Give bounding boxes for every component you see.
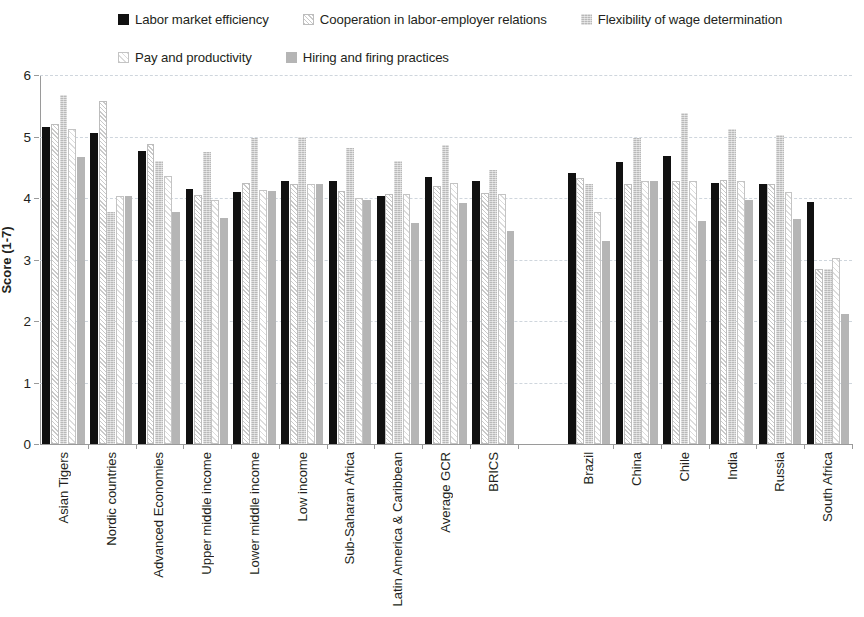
- bar: [568, 173, 576, 444]
- bar: [211, 200, 219, 444]
- bar: [585, 184, 593, 444]
- x-axis-category-label: Brazil: [581, 452, 596, 484]
- bar: [737, 181, 745, 444]
- y-axis-tick: [34, 75, 39, 76]
- x-axis-tick: [756, 444, 757, 449]
- bar: [403, 194, 411, 444]
- bar: [164, 176, 172, 444]
- legend-item-label: Hiring and firing practices: [303, 50, 449, 65]
- bar: [338, 191, 346, 444]
- x-axis-line: [40, 444, 852, 445]
- bar: [681, 113, 689, 444]
- x-axis-tick: [613, 444, 614, 449]
- bar: [641, 181, 649, 444]
- y-axis-tick: [34, 383, 39, 384]
- bar: [594, 212, 602, 444]
- bar: [711, 183, 719, 444]
- legend-swatch-icon: [118, 52, 129, 63]
- legend-item-hiring-and-firing-practices: Hiring and firing practices: [286, 50, 449, 65]
- bar: [759, 184, 767, 444]
- x-axis-category-label: India: [725, 452, 740, 480]
- bar: [107, 212, 115, 444]
- bar: [316, 184, 324, 444]
- bar: [233, 192, 241, 444]
- x-axis-category-label: Latin America & Caribbean: [390, 452, 405, 606]
- bar: [220, 218, 228, 444]
- legend-row-2: Pay and productivity Hiring and firing p…: [118, 50, 483, 65]
- x-axis-tick: [183, 444, 184, 449]
- bar: [650, 181, 658, 444]
- y-axis-tick: [34, 321, 39, 322]
- bar: [242, 183, 250, 444]
- bar: [394, 161, 402, 445]
- bar: [268, 191, 276, 444]
- bar: [576, 178, 584, 444]
- bar: [472, 181, 480, 444]
- bar: [824, 269, 832, 444]
- bar: [459, 203, 467, 444]
- x-axis-tick: [518, 444, 519, 449]
- bar: [155, 161, 163, 444]
- bar: [290, 184, 298, 444]
- legend-swatch-icon: [303, 14, 314, 25]
- y-axis-tick-label: 4: [23, 191, 31, 206]
- y-axis-tick-label: 6: [23, 68, 31, 83]
- bar: [90, 133, 98, 444]
- bar: [194, 195, 202, 444]
- x-axis-tick: [709, 444, 710, 449]
- bar: [99, 101, 107, 444]
- x-axis-tick: [231, 444, 232, 449]
- legend-swatch-icon: [581, 14, 592, 25]
- bar: [298, 137, 306, 444]
- y-axis-tick-label: 1: [23, 375, 31, 390]
- bar: [203, 152, 211, 444]
- bar: [776, 135, 784, 444]
- bar: [259, 190, 267, 444]
- bar: [172, 212, 180, 444]
- bar: [281, 181, 289, 444]
- bar: [698, 221, 706, 444]
- legend-item-label: Pay and productivity: [135, 50, 252, 65]
- x-axis-category-label: Low income: [295, 452, 310, 521]
- x-axis-category-label: Chile: [677, 452, 692, 482]
- bar: [793, 219, 801, 444]
- x-axis-tick: [88, 444, 89, 449]
- legend-item-label: Labor market efficiency: [135, 12, 269, 27]
- bar: [624, 184, 632, 444]
- bar: [125, 196, 133, 444]
- bar: [785, 192, 793, 444]
- y-axis-tick: [34, 137, 39, 138]
- bar: [251, 138, 259, 444]
- y-axis-tick-label: 0: [23, 437, 31, 452]
- y-axis-tick: [34, 444, 39, 445]
- bar: [425, 177, 433, 444]
- bar: [346, 148, 354, 444]
- x-axis-tick: [852, 444, 853, 449]
- bar: [147, 144, 155, 444]
- bar: [498, 194, 506, 444]
- bar: [68, 129, 76, 444]
- x-axis-category-label: Average GCR: [438, 452, 453, 533]
- bar: [815, 269, 823, 444]
- x-axis-tick: [661, 444, 662, 449]
- x-axis-category-label: Advanced Economies: [151, 452, 166, 578]
- legend-item-cooperation-labor-employer-relations: Cooperation in labor-employer relations: [303, 12, 547, 27]
- bar: [689, 181, 697, 444]
- x-axis-tick: [279, 444, 280, 449]
- legend-item-flexibility-of-wage-determination: Flexibility of wage determination: [581, 12, 782, 27]
- bar: [841, 314, 849, 444]
- bar: [807, 202, 815, 444]
- bar: [728, 129, 736, 444]
- bar: [450, 183, 458, 444]
- bar: [616, 162, 624, 444]
- legend-swatch-icon: [118, 14, 129, 25]
- legend-row-1: Labor market efficiency Cooperation in l…: [118, 12, 816, 27]
- bar: [672, 181, 680, 444]
- legend-item-labor-market-efficiency: Labor market efficiency: [118, 12, 269, 27]
- legend-swatch-icon: [286, 52, 297, 63]
- bar: [77, 157, 85, 444]
- legend-item-pay-and-productivity: Pay and productivity: [118, 50, 252, 65]
- chart-legend: Labor market efficiency Cooperation in l…: [0, 6, 864, 68]
- x-axis-tick: [804, 444, 805, 449]
- bar: [377, 196, 385, 444]
